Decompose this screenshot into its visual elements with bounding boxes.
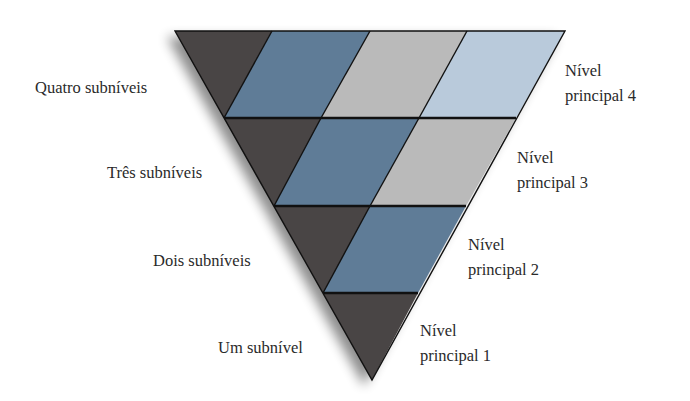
label-principal-level-4: Nível principal 4 <box>565 58 636 108</box>
label-line1: Nível <box>517 145 588 170</box>
label-line2: principal 4 <box>565 83 636 108</box>
label-line2: principal 2 <box>468 257 539 282</box>
label-principal-level-1: Nível principal 1 <box>420 318 491 368</box>
label-line1: Nível <box>420 318 491 343</box>
label-three-subshells: Três subníveis <box>107 160 202 185</box>
label-one-subshell: Um subnível <box>218 335 303 360</box>
level-1-subshell-s <box>323 293 418 380</box>
label-line1: Nível <box>468 232 539 257</box>
label-four-subshells: Quatro subníveis <box>35 75 147 100</box>
label-line2: principal 3 <box>517 170 588 195</box>
label-principal-level-2: Nível principal 2 <box>468 232 539 282</box>
label-line1: Nível <box>565 58 636 83</box>
label-principal-level-3: Nível principal 3 <box>517 145 588 195</box>
label-line2: principal 1 <box>420 343 491 368</box>
label-two-subshells: Dois subníveis <box>153 248 251 273</box>
